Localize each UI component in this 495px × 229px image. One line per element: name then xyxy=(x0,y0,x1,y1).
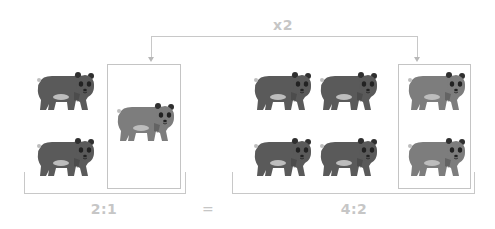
right-bracket-right xyxy=(474,172,475,194)
left-bracket-right xyxy=(185,172,186,194)
arrow-down-icon xyxy=(414,57,420,62)
right-bracket-base xyxy=(232,193,475,194)
bear-icon xyxy=(317,70,379,114)
bear-icon xyxy=(34,70,96,114)
connector-right-drop xyxy=(417,36,418,58)
bear-icon xyxy=(405,136,467,180)
left-ratio-label: 2:1 xyxy=(84,201,124,217)
bear-icon xyxy=(34,136,96,180)
left-bracket-left xyxy=(24,172,25,194)
right-bracket-left xyxy=(232,172,233,194)
bear-icon xyxy=(317,136,379,180)
bear-icon xyxy=(251,70,313,114)
left-bracket-base xyxy=(24,193,186,194)
connector-left-drop xyxy=(151,36,152,58)
bear-icon xyxy=(405,70,467,114)
multiplier-label: x2 xyxy=(268,17,298,33)
arrow-down-icon xyxy=(148,57,154,62)
connector-top-line xyxy=(151,36,418,37)
bear-icon xyxy=(114,101,176,145)
equals-sign: = xyxy=(198,201,218,217)
right-ratio-label: 4:2 xyxy=(334,201,374,217)
bear-icon xyxy=(251,136,313,180)
